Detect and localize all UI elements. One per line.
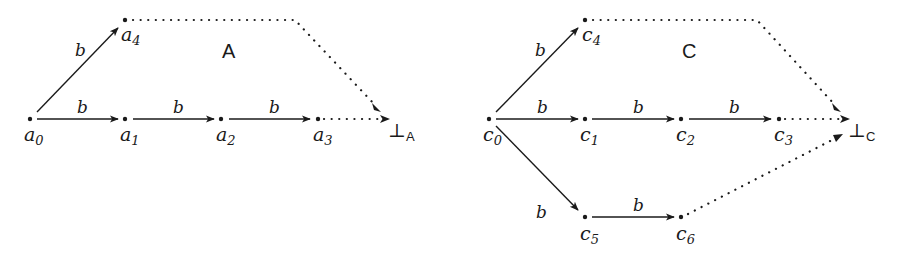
- node-a2: [219, 117, 223, 121]
- node-a0: [28, 117, 32, 121]
- node-label-c4: c4: [582, 23, 601, 48]
- edge-label: b: [77, 97, 88, 117]
- diagram-title-c: C: [682, 40, 696, 62]
- node-c2: [679, 117, 683, 121]
- arrowhead-icon: [372, 103, 381, 112]
- node-c4: [583, 18, 587, 22]
- edge-label: b: [537, 97, 548, 117]
- edge-label: b: [535, 40, 546, 60]
- dotted-edge-c6-bottom: [688, 139, 834, 214]
- node-label-a1: a1: [120, 123, 140, 148]
- node-c3: [777, 117, 781, 121]
- edge-label: b: [633, 97, 644, 117]
- node-c0: [487, 117, 491, 121]
- dotted-edge-a4-bottom: [133, 20, 375, 105]
- edge-label: b: [75, 40, 86, 60]
- edge-c0-c5: [496, 126, 578, 210]
- node-label-c5: c5: [580, 222, 599, 247]
- node-a4: [123, 18, 127, 22]
- edge-label: b: [269, 97, 280, 117]
- node-label-c6: c6: [676, 222, 695, 247]
- diagram-c: C b b b b b b c0 c1 c2 c3 c4 c5: [483, 18, 875, 247]
- node-a3: [316, 117, 320, 121]
- node-a1: [123, 117, 127, 121]
- node-label-c3: c3: [774, 123, 793, 148]
- node-c1: [583, 117, 587, 121]
- node-label-a0: a0: [24, 123, 44, 148]
- edge-label: b: [633, 195, 644, 215]
- dotted-edge-c4-bottom: [593, 20, 835, 105]
- node-label-a2: a2: [216, 123, 236, 148]
- diagram-canvas: A b b b b a0 a1 a2 a3 a4 ⊥A C: [0, 0, 900, 258]
- arrowhead-icon: [832, 103, 841, 112]
- bottom-label-a: ⊥A: [388, 119, 415, 144]
- edge-label: b: [173, 97, 184, 117]
- node-c6: [679, 215, 683, 219]
- node-c5: [583, 215, 587, 219]
- node-label-a4: a4: [121, 23, 141, 48]
- node-label-a3: a3: [313, 123, 333, 148]
- bottom-label-c: ⊥C: [848, 119, 875, 144]
- diagram-a: A b b b b a0 a1 a2 a3 a4 ⊥A: [24, 18, 415, 148]
- edge-label: b: [536, 202, 547, 222]
- node-label-c0: c0: [483, 123, 502, 148]
- diagram-title-a: A: [222, 40, 236, 62]
- edge-label: b: [729, 97, 740, 117]
- node-label-c2: c2: [676, 123, 695, 148]
- node-label-c1: c1: [580, 123, 599, 148]
- arrowhead-icon: [833, 134, 843, 142]
